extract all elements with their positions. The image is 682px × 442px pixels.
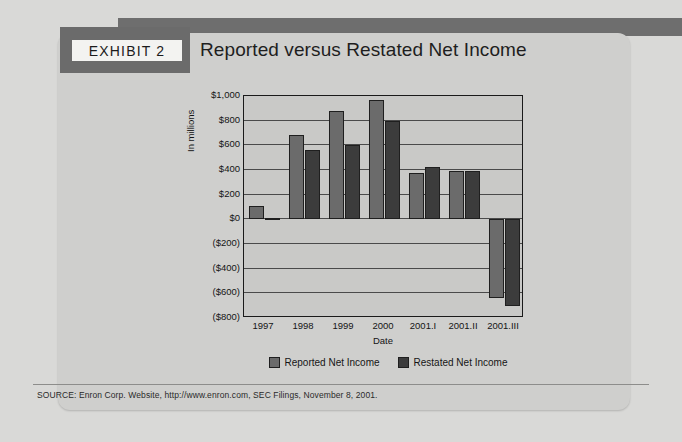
legend-label: Reported Net Income — [285, 357, 380, 368]
x-axis-tick: 2001.III — [483, 320, 523, 331]
chart-bar — [505, 219, 520, 305]
y-axis-tick: ($200) — [194, 238, 240, 248]
chart-bar — [465, 171, 480, 219]
chart-bar — [489, 219, 504, 298]
chart-gridline — [244, 243, 522, 244]
chart-bar — [345, 145, 360, 219]
y-axis-tick: $200 — [194, 189, 240, 199]
legend-item: Reported Net Income — [269, 357, 380, 368]
y-axis-tick: $1,000 — [194, 90, 240, 100]
x-axis-tick: 2000 — [363, 320, 403, 331]
chart-bar — [425, 167, 440, 219]
y-axis-tick: $600 — [194, 139, 240, 149]
y-axis-tick: ($800) — [194, 312, 240, 322]
chart-bar — [265, 218, 280, 220]
y-axis-label: In millions — [185, 110, 196, 152]
legend-item: Restated Net Income — [398, 357, 508, 368]
x-axis-tick: 1998 — [283, 320, 323, 331]
chart-bar — [249, 206, 264, 219]
y-axis-tick: $800 — [194, 115, 240, 125]
y-axis-tick: ($400) — [194, 263, 240, 273]
chart-bar — [289, 135, 304, 219]
chart-gridline — [244, 292, 522, 293]
source-divider — [33, 384, 649, 385]
y-axis-tick: $0 — [194, 213, 240, 223]
chart-bar — [305, 150, 320, 219]
legend-label: Restated Net Income — [414, 357, 508, 368]
x-axis-label: Date — [243, 335, 523, 346]
chart-bar — [329, 111, 344, 219]
legend-swatch-icon — [269, 357, 280, 368]
exhibit-badge: EXHIBIT 2 — [72, 40, 182, 61]
source-note: SOURCE: Enron Corp. Website, http://www.… — [37, 390, 378, 400]
chart-bar — [369, 100, 384, 220]
y-axis-tick-labels: $1,000$800$600$400$200$0($200)($400)($60… — [190, 0, 240, 442]
chart-bar — [409, 173, 424, 219]
chart-bar — [449, 171, 464, 219]
chart-plot-area — [243, 95, 523, 317]
x-axis-tick: 1999 — [323, 320, 363, 331]
chart-legend: Reported Net IncomeRestated Net Income — [243, 357, 533, 368]
legend-swatch-icon — [398, 357, 409, 368]
y-axis-tick: ($600) — [194, 287, 240, 297]
page-title: Reported versus Restated Net Income — [200, 39, 527, 61]
x-axis-tick: 2001.II — [443, 320, 483, 331]
chart-bar — [385, 121, 400, 220]
y-axis-tick: $400 — [194, 164, 240, 174]
x-axis-tick: 1997 — [243, 320, 283, 331]
chart-gridline — [244, 268, 522, 269]
x-axis-tick: 2001.I — [403, 320, 443, 331]
